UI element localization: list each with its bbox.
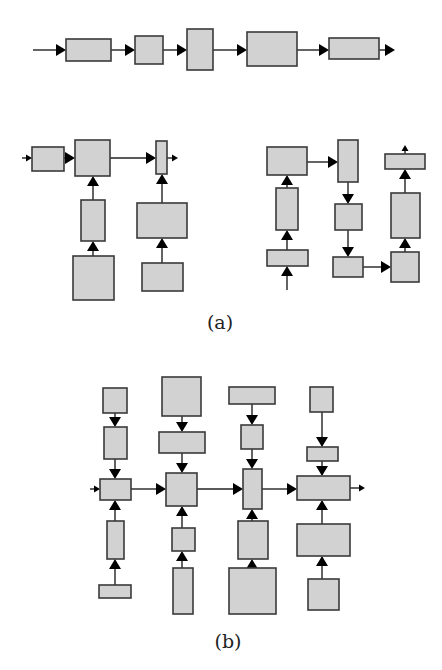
arrow-icon <box>176 416 188 432</box>
arrow-icon <box>363 261 391 273</box>
block-t4 <box>247 32 297 66</box>
arrow-icon <box>262 483 297 495</box>
arrow-icon <box>197 483 243 495</box>
arrow-icon <box>110 152 156 164</box>
arrow-icon <box>316 556 328 579</box>
block-b4d <box>308 579 339 610</box>
block-a7 <box>142 263 183 291</box>
arrow-icon <box>342 182 354 204</box>
block-b1b <box>104 427 127 459</box>
block-b2c <box>172 528 195 551</box>
arrow-icon <box>307 156 338 168</box>
block-r9 <box>385 154 425 169</box>
arrow-icon <box>176 506 188 528</box>
arrow-icon <box>350 485 365 492</box>
arrow-icon <box>176 551 188 568</box>
block-b1m <box>100 479 131 500</box>
block-a5 <box>73 256 114 300</box>
block-t3 <box>187 29 213 70</box>
block-t2 <box>135 36 163 64</box>
block-b2d <box>173 568 193 614</box>
block-r3 <box>267 250 308 266</box>
arrow-icon <box>90 486 100 493</box>
caption-b: (b) <box>215 630 242 652</box>
arrow-icon <box>167 155 178 162</box>
block-t1 <box>66 39 111 61</box>
arrow-icon <box>213 44 247 56</box>
block-b3c <box>238 521 268 559</box>
block-b4m <box>297 476 350 500</box>
arrow-icon <box>109 559 121 585</box>
block-r6 <box>333 257 363 277</box>
block-r1 <box>267 147 307 175</box>
block-r2 <box>276 188 298 230</box>
block-a6 <box>137 203 187 238</box>
block-b3b <box>241 425 263 449</box>
block-b4c <box>297 524 350 556</box>
arrow-icon <box>402 145 409 154</box>
block-a4 <box>81 200 105 241</box>
block-r5 <box>335 204 362 230</box>
block-b1a <box>103 388 127 413</box>
block-b1d <box>99 585 131 598</box>
arrow-icon <box>246 404 258 425</box>
block-b4b <box>307 447 338 461</box>
arrow-icon <box>22 155 32 162</box>
arrow-icon <box>281 230 293 250</box>
arrow-icon <box>399 238 411 252</box>
arrow-icon <box>156 174 168 203</box>
arrow-icon <box>163 44 187 56</box>
arrow-icon <box>316 500 328 524</box>
block-r4 <box>338 140 358 182</box>
block-b2b <box>159 432 205 453</box>
arrow-icon <box>131 483 166 495</box>
arrow-icon <box>109 413 121 427</box>
arrow-icon <box>281 266 293 290</box>
arrow-icon <box>87 241 99 256</box>
block-b2a <box>162 377 201 416</box>
arrow-icon <box>316 461 328 476</box>
block-a3 <box>156 141 167 174</box>
block-r7 <box>391 252 419 282</box>
block-a1 <box>32 147 64 171</box>
arrow-icon <box>342 230 354 257</box>
arrow-icon <box>316 412 328 447</box>
arrow-icon <box>156 238 168 263</box>
arrow-icon <box>64 152 75 164</box>
arrow-icon <box>379 44 395 56</box>
block-b1c <box>107 521 124 559</box>
block-r8 <box>391 193 420 238</box>
block-a2 <box>75 140 110 176</box>
arrow-icon <box>246 509 258 521</box>
arrow-icon <box>246 449 258 469</box>
arrow-icon <box>176 453 188 473</box>
arrow-icon <box>33 44 66 56</box>
block-t5 <box>329 38 379 59</box>
arrow-icon <box>297 44 329 56</box>
block-b4a <box>310 387 333 412</box>
arrow-icon <box>109 459 121 479</box>
arrow-icon <box>399 169 411 193</box>
block-b3d <box>229 568 276 614</box>
block-b2m <box>166 473 197 506</box>
block-b3m <box>243 469 262 509</box>
arrow-icon <box>87 176 99 200</box>
block-b3a <box>229 387 275 404</box>
arrow-icon <box>281 175 293 188</box>
block-diagram-canvas <box>0 0 442 670</box>
arrow-icon <box>111 44 135 56</box>
caption-a: (a) <box>207 311 233 333</box>
arrow-icon <box>109 500 121 521</box>
